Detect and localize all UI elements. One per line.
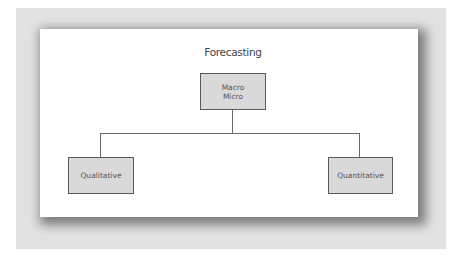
quantitative-label: Quantitative: [337, 171, 384, 180]
qualitative-label: Qualitative: [80, 171, 121, 180]
connector-root-down: [232, 110, 233, 133]
root-node: Macro Micro: [200, 73, 266, 110]
connector-horizontal: [100, 133, 360, 134]
root-node-line2: Micro: [222, 92, 245, 101]
connector-left-down: [100, 133, 101, 157]
quantitative-node: Quantitative: [328, 157, 393, 194]
diagram-title: Forecasting: [0, 46, 461, 58]
connector-right-down: [359, 133, 360, 157]
root-node-line1: Macro: [222, 83, 245, 92]
qualitative-node: Qualitative: [68, 157, 134, 194]
